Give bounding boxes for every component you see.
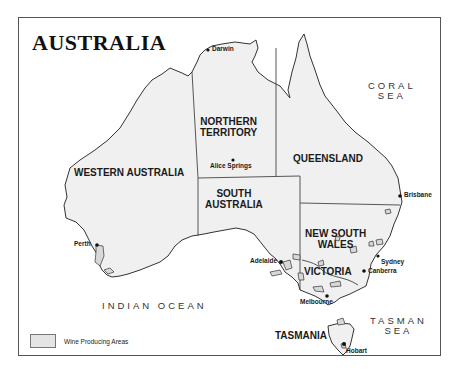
city-label-melbourne[interactable]: Melbourne	[300, 299, 333, 306]
state-label-northern-territory[interactable]: NORTHERNTERRITORY	[200, 117, 257, 138]
city-label-darwin[interactable]: Darwin	[212, 46, 234, 53]
sea-label-coral-sea: CORALSEA	[368, 81, 416, 101]
map-legend: Wine Producing Areas	[30, 334, 128, 348]
state-label-new-south-wales[interactable]: NEW SOUTHWALES	[305, 229, 366, 250]
city-label-canberra[interactable]: Canberra	[368, 268, 397, 275]
legend-label: Wine Producing Areas	[64, 338, 128, 345]
city-label-alice-springs[interactable]: Alice Springs	[210, 163, 252, 170]
state-label-tasmania[interactable]: TASMANIA	[275, 331, 327, 342]
state-label-south-australia[interactable]: SOUTHAUSTRALIA	[205, 189, 263, 210]
sea-label-indian-ocean: INDIAN OCEAN	[102, 301, 207, 311]
sea-label-tasman-sea: TASMANSEA	[370, 316, 427, 336]
state-label-queensland[interactable]: QUEENSLAND	[293, 154, 363, 165]
city-label-brisbane[interactable]: Brisbane	[404, 192, 432, 199]
state-label-victoria[interactable]: VICTORIA	[304, 267, 352, 278]
city-label-sydney[interactable]: Sydney	[381, 259, 404, 266]
map-title: AUSTRALIA	[32, 30, 166, 56]
city-label-adelaide[interactable]: Adelaide	[250, 258, 277, 265]
city-label-perth[interactable]: Perth	[74, 241, 91, 248]
wine-area-swatch	[30, 334, 56, 348]
state-label-western-australia[interactable]: WESTERN AUSTRALIA	[74, 168, 184, 179]
city-label-hobart[interactable]: Hobart	[346, 348, 367, 355]
